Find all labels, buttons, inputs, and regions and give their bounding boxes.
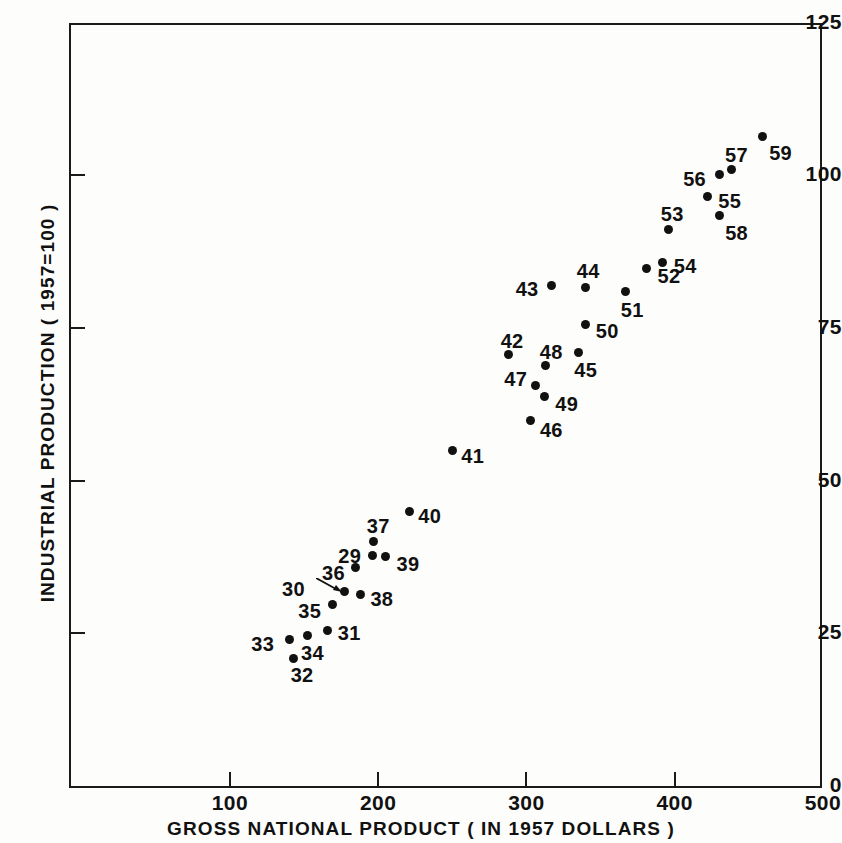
data-point: [715, 170, 724, 179]
data-point-label: 53: [661, 203, 684, 226]
x-tick: [525, 772, 527, 786]
data-point: [351, 563, 360, 572]
x-tick: [229, 772, 231, 786]
axis-frame-top: [69, 23, 822, 25]
y-tick-label: 25: [780, 620, 842, 644]
x-tick-label: 100: [190, 791, 270, 815]
data-point-label: 41: [461, 445, 484, 468]
data-point: [581, 283, 590, 292]
data-point: [658, 258, 667, 267]
data-point-label: 50: [596, 320, 619, 343]
data-point: [381, 552, 390, 561]
y-tick: [71, 632, 85, 634]
data-point-label: 35: [298, 600, 321, 623]
data-point-label: 55: [718, 190, 741, 213]
scatter-chart: 1251007550250 100200300400500 2930313233…: [0, 0, 842, 843]
y-tick: [71, 480, 85, 482]
data-point-label: 47: [504, 368, 527, 391]
data-point: [356, 590, 365, 599]
data-point: [621, 287, 630, 296]
x-tick-label: 200: [338, 791, 418, 815]
data-point-label: 44: [577, 260, 600, 283]
data-point-label: 32: [291, 664, 314, 687]
data-point-label: 48: [540, 341, 563, 364]
y-tick-label: 100: [780, 162, 842, 186]
data-point: [642, 264, 651, 273]
data-point: [703, 192, 712, 201]
data-point: [574, 348, 583, 357]
data-point-label: 56: [683, 168, 706, 191]
x-tick: [674, 772, 676, 786]
y-tick-label: 125: [780, 10, 842, 34]
x-axis-title: GROSS NATIONAL PRODUCT ( IN 1957 DOLLARS…: [0, 818, 842, 840]
data-point-label: 51: [621, 299, 644, 322]
data-point-label: 31: [338, 622, 361, 645]
data-point-label: 40: [418, 505, 441, 528]
data-point-label: 45: [574, 359, 597, 382]
x-tick-label: 400: [635, 791, 715, 815]
y-tick: [71, 327, 85, 329]
data-point: [540, 392, 549, 401]
data-point: [303, 631, 312, 640]
data-point-label: 46: [540, 419, 563, 442]
data-point-label: 58: [725, 222, 748, 245]
y-axis-title: INDUSTRIAL PRODUCTION ( 1957=100 ): [37, 123, 59, 683]
x-tick-label: 500: [783, 791, 842, 815]
data-point: [526, 416, 535, 425]
data-point: [289, 654, 298, 663]
data-point-label: 54: [674, 255, 697, 278]
data-point: [715, 211, 724, 220]
data-point-label: 42: [501, 330, 524, 353]
data-point: [328, 600, 337, 609]
data-point-label: 34: [301, 642, 324, 665]
data-point-label: 59: [769, 142, 792, 165]
x-tick: [377, 772, 379, 786]
data-point: [405, 507, 414, 516]
data-point-label: 39: [397, 553, 420, 576]
leader-line-30: [316, 578, 342, 592]
data-point: [369, 537, 378, 546]
data-point-label: 57: [725, 144, 748, 167]
data-point-label: 33: [251, 633, 274, 656]
data-point-label: 30: [282, 578, 305, 601]
data-point: [323, 626, 332, 635]
data-point: [368, 551, 377, 560]
data-point: [531, 381, 540, 390]
data-point: [581, 320, 590, 329]
axis-frame-bottom: [69, 786, 822, 788]
y-tick-label: 75: [780, 315, 842, 339]
data-point: [285, 635, 294, 644]
y-tick-label: 50: [780, 468, 842, 492]
data-point-label: 37: [367, 515, 390, 538]
data-point-label: 49: [555, 393, 578, 416]
data-point-label: 43: [516, 278, 539, 301]
data-point: [758, 132, 767, 141]
x-tick-label: 300: [486, 791, 566, 815]
data-point-label: 38: [370, 588, 393, 611]
axis-frame-left: [69, 23, 71, 788]
y-tick: [71, 174, 85, 176]
axis-frame-right: [820, 23, 822, 788]
data-point: [448, 446, 457, 455]
data-point: [547, 281, 556, 290]
